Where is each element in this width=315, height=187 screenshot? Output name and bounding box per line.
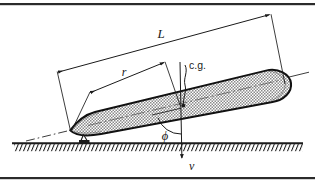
dimension-line-L <box>59 15 270 72</box>
label-r: r <box>122 65 127 79</box>
extension-line-L-left <box>57 72 70 131</box>
technical-diagram: L r c.g. v ϕ <box>0 0 315 187</box>
label-phi: ϕ <box>162 129 169 143</box>
dimension-line-r <box>91 62 164 92</box>
figure-frame: L r c.g. v ϕ <box>0 0 315 187</box>
label-v: v <box>189 159 195 173</box>
centerline-nose-extension <box>26 130 71 141</box>
ground-hatching <box>14 144 303 152</box>
contact-pad <box>79 140 90 143</box>
frame-top-border <box>0 3 315 5</box>
ground <box>12 143 303 151</box>
label-cg: c.g. <box>189 59 206 71</box>
label-L: L <box>156 26 164 41</box>
frame-bottom-border <box>0 177 315 179</box>
cg-point-marker <box>182 104 186 108</box>
